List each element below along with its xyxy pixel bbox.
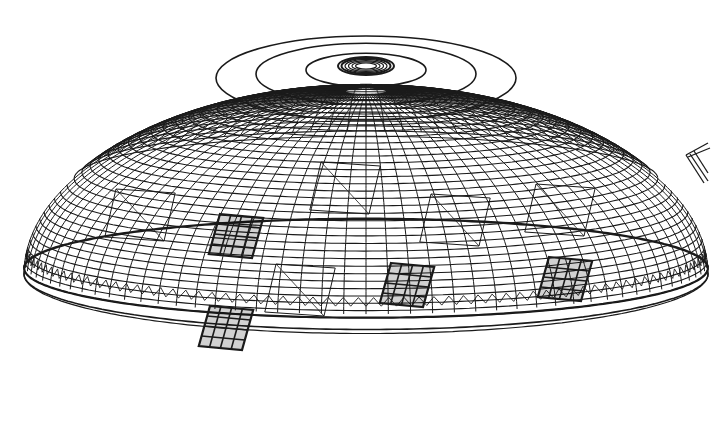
dome-wireframe-canvas xyxy=(0,0,728,427)
skylight-right xyxy=(538,257,592,301)
skylight-openings xyxy=(105,162,595,350)
skylight-center xyxy=(380,263,434,307)
partial-detail-fragment xyxy=(686,143,710,183)
dome-diagram: lattice dome structure wireframe xyxy=(0,0,728,427)
